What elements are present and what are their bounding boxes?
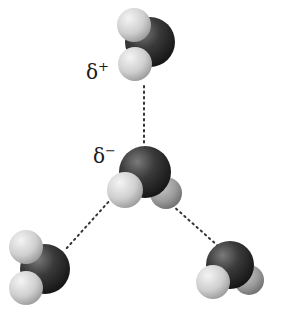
partial-negative-label: δ− [93, 146, 116, 166]
charge-sign: − [105, 143, 116, 158]
partial-positive-label: δ+ [86, 62, 109, 82]
hydrogen-atom [9, 230, 43, 264]
delta-symbol: δ [86, 60, 98, 84]
hydrogen-atom [107, 172, 143, 208]
water-molecule-top [117, 8, 175, 81]
water-molecule-bottom-left [9, 230, 70, 305]
water-hydrogen-bond-diagram: δ+ δ− [0, 0, 282, 309]
hydrogen-atom [118, 47, 152, 81]
delta-symbol: δ [93, 144, 105, 168]
hydrogen-atom [117, 8, 151, 42]
hydrogen-bond-center-bottom-left [65, 198, 112, 250]
water-molecule-center [107, 146, 182, 209]
hydrogen-atom [9, 271, 43, 305]
charge-sign: + [98, 59, 109, 74]
diagram-canvas [0, 0, 282, 309]
water-molecule-bottom-right [196, 241, 264, 299]
hydrogen-bond-center-bottom-right [172, 205, 218, 246]
hydrogen-atom [196, 265, 230, 299]
